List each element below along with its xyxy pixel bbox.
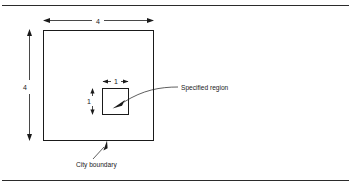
- inner-top-arrow-left-icon: [103, 79, 109, 83]
- figure-container: 4 4 1 1 Specif: [0, 0, 351, 189]
- inner-top-arrow-right-icon: [123, 79, 129, 83]
- inner-top-dimension: 1: [103, 78, 129, 85]
- outer-left-dimension: 4: [23, 29, 32, 141]
- city-boundary-label: City boundary: [76, 161, 117, 169]
- outer-top-arrow-left-icon: [43, 18, 50, 23]
- specified-region-leader-line: [124, 87, 178, 102]
- city-boundary-square: [44, 31, 154, 141]
- outer-left-arrow-top-icon: [27, 29, 32, 36]
- outer-top-dim-label: 4: [96, 18, 100, 25]
- outer-left-dim-label: 4: [23, 84, 27, 91]
- inner-top-dim-label: 1: [114, 78, 118, 85]
- inner-left-arrow-top-icon: [90, 88, 94, 94]
- specified-region-callout: Specified region: [113, 84, 229, 109]
- outer-top-dimension: 4: [43, 18, 154, 25]
- inner-left-dim-label: 1: [87, 98, 91, 105]
- inner-left-dimension: 1: [87, 88, 95, 115]
- city-boundary-arrowhead-icon: [103, 141, 107, 151]
- city-boundary-leader-line: [93, 147, 104, 159]
- inner-left-arrow-bottom-icon: [90, 110, 94, 116]
- outer-top-arrow-right-icon: [147, 18, 154, 23]
- diagram-canvas: 4 4 1 1 Specif: [0, 0, 351, 189]
- specified-region-arrowhead-icon: [113, 100, 126, 109]
- outer-left-arrow-bottom-icon: [27, 134, 32, 141]
- specified-region-label: Specified region: [181, 84, 229, 92]
- city-boundary-callout: City boundary: [76, 141, 117, 170]
